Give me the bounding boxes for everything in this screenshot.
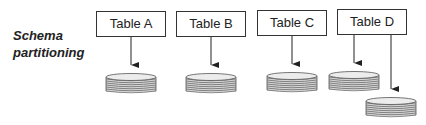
disk-stack-a-icon [106, 74, 156, 93]
disk-stack-d1-icon [329, 72, 379, 91]
disk-stack-b-icon [186, 74, 236, 93]
disk-stack-d2-icon [366, 98, 416, 117]
diagram-graphics [0, 0, 426, 125]
disk-stack-c-icon [267, 73, 317, 92]
